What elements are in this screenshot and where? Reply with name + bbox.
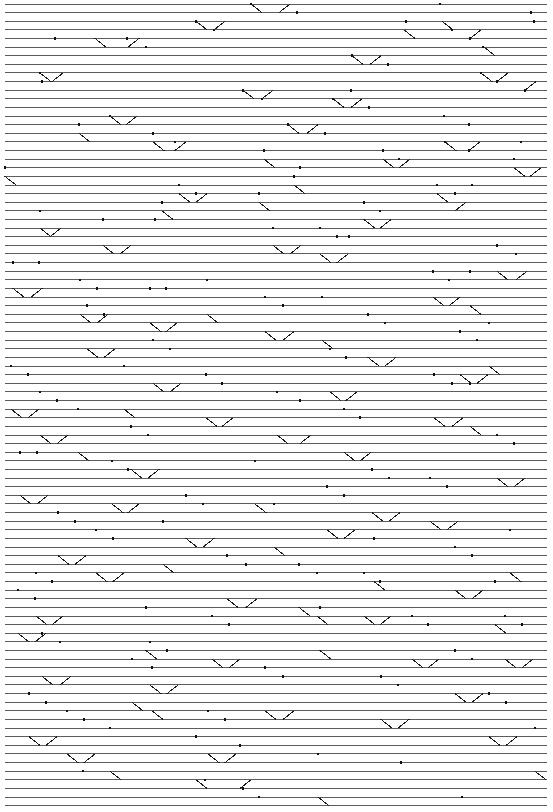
dot-marker (54, 37, 57, 40)
dot-marker (185, 494, 188, 497)
dot-marker (468, 123, 471, 126)
dot-marker (368, 106, 371, 109)
dot-marker (351, 54, 354, 57)
dot-marker (112, 537, 115, 540)
dot-marker (454, 192, 457, 195)
dot-marker (379, 210, 382, 213)
dot-marker (384, 322, 387, 325)
dot-marker (448, 279, 451, 282)
dot-marker (444, 141, 447, 144)
dot-marker (59, 641, 62, 644)
dot-marker (397, 684, 400, 687)
dot-marker (387, 63, 390, 66)
dot-marker (211, 615, 214, 618)
dot-marker (454, 649, 457, 652)
dot-marker (95, 529, 98, 532)
dot-marker (469, 270, 472, 273)
dot-marker (405, 20, 408, 23)
dot-marker (250, 3, 253, 6)
dot-marker (429, 477, 432, 480)
dot-marker (10, 365, 13, 368)
dot-marker (82, 770, 85, 773)
dot-marker (273, 503, 276, 506)
dot-marker (258, 796, 261, 799)
dot-marker (521, 623, 524, 626)
dot-marker (371, 468, 374, 471)
dot-marker (161, 201, 164, 204)
dot-marker (363, 572, 366, 575)
dot-marker (299, 166, 302, 169)
dot-marker (363, 201, 366, 204)
dot-marker (145, 606, 148, 609)
dot-marker (272, 227, 275, 230)
dot-marker (224, 718, 227, 721)
dot-marker (480, 72, 483, 75)
dot-marker (152, 339, 155, 342)
dot-marker (336, 235, 339, 238)
dot-marker (469, 37, 472, 40)
dot-marker (496, 244, 499, 247)
dot-marker (195, 20, 198, 23)
line-pattern-svg (0, 0, 553, 812)
dot-marker (130, 425, 133, 428)
dot-marker (459, 330, 462, 333)
dot-marker (38, 261, 41, 264)
dot-marker (400, 761, 403, 764)
dot-marker (221, 382, 224, 385)
dot-marker (178, 184, 181, 187)
dot-marker (520, 141, 523, 144)
dot-marker (443, 115, 446, 118)
dot-marker (254, 460, 257, 463)
dot-marker (282, 675, 285, 678)
dot-marker (151, 666, 154, 669)
dot-marker (496, 434, 499, 437)
dot-marker (319, 606, 322, 609)
dot-marker (261, 98, 264, 101)
dot-marker (239, 744, 242, 747)
dot-marker (515, 253, 518, 256)
dot-marker (27, 373, 30, 376)
dot-marker (446, 485, 449, 488)
dot-marker (345, 356, 348, 359)
dot-marker (39, 72, 42, 75)
dot-marker (513, 158, 516, 161)
dot-marker (111, 460, 114, 463)
dot-marker (329, 348, 332, 351)
dot-marker (35, 572, 38, 575)
dot-marker (206, 279, 209, 282)
dot-marker (12, 261, 15, 264)
dot-marker (74, 520, 77, 523)
dot-marker (169, 348, 172, 351)
dot-marker (96, 287, 99, 290)
dot-marker (165, 287, 168, 290)
dot-marker (83, 718, 86, 721)
dot-marker (204, 779, 207, 782)
dot-marker (109, 115, 112, 118)
dot-marker (78, 123, 81, 126)
dot-marker (86, 304, 89, 307)
dot-marker (202, 503, 205, 506)
dot-marker (41, 632, 44, 635)
dot-marker (513, 442, 516, 445)
dot-marker (350, 89, 353, 92)
dot-marker (509, 529, 512, 532)
dot-marker (17, 589, 20, 592)
dot-marker (367, 313, 370, 316)
dot-marker (471, 184, 474, 187)
dot-marker (496, 80, 499, 83)
dot-marker (504, 615, 507, 618)
dot-marker (149, 287, 152, 290)
dot-marker (149, 641, 152, 644)
dot-marker (102, 218, 105, 221)
dot-marker (317, 753, 320, 756)
dot-marker (433, 373, 436, 376)
dot-marker (380, 675, 383, 678)
dot-marker (436, 184, 439, 187)
dot-marker (488, 322, 491, 325)
dot-marker (326, 485, 329, 488)
dot-marker (36, 451, 39, 454)
dot-marker (166, 649, 169, 652)
dot-marker (359, 416, 362, 419)
dot-marker (195, 735, 198, 738)
dot-marker (242, 787, 245, 790)
